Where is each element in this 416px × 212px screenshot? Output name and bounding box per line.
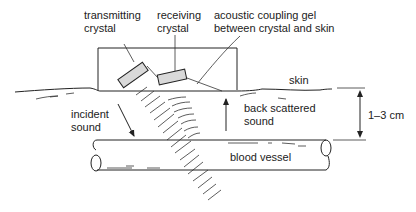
label-coupling-gel-line2: between crystal and skin bbox=[214, 22, 334, 34]
label-transmitting-crystal-line2: crystal bbox=[84, 22, 116, 34]
label-blood-vessel: blood vessel bbox=[230, 151, 291, 163]
label-incident-sound-line2: sound bbox=[71, 121, 101, 133]
leader-gel bbox=[197, 36, 240, 84]
blood-vessel bbox=[91, 140, 331, 171]
incident-sound-arrow bbox=[118, 104, 134, 136]
doppler-probe-diagram: transmitting crystal receiving crystal a… bbox=[0, 0, 416, 212]
crystal-connector bbox=[147, 66, 158, 78]
label-transmitting-crystal-line1: transmitting bbox=[84, 9, 141, 21]
label-receiving-crystal-line2: crystal bbox=[157, 22, 189, 34]
label-back-scattered-line1: back scattered bbox=[244, 102, 316, 114]
label-depth: 1–3 cm bbox=[368, 109, 404, 121]
leader-transmitting bbox=[124, 44, 134, 62]
label-receiving-crystal-line1: receiving bbox=[157, 9, 201, 21]
probe-housing bbox=[98, 48, 237, 91]
label-back-scattered-line2: sound bbox=[244, 115, 274, 127]
label-coupling-gel-line1: acoustic coupling gel bbox=[214, 9, 316, 21]
skin-line bbox=[15, 88, 332, 92]
label-incident-sound-line1: incident bbox=[71, 108, 109, 120]
transmitting-crystal bbox=[118, 62, 148, 87]
incident-beam-hatching bbox=[136, 87, 221, 200]
backscatter-arcs bbox=[168, 97, 200, 138]
skin-texture bbox=[36, 93, 286, 99]
receiving-lead bbox=[187, 78, 222, 91]
label-skin: skin bbox=[289, 74, 309, 86]
receiving-crystal bbox=[157, 69, 186, 85]
depth-dimension bbox=[333, 88, 366, 140]
